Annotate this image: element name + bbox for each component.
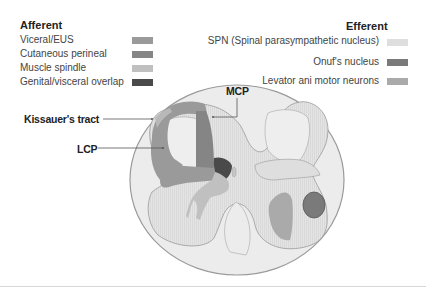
spinal-cord-diagram: [0, 0, 426, 292]
bottom-divider: [0, 286, 426, 287]
spindle-droplet: [232, 167, 236, 177]
kissauer-tract-label: Kissauer's tract: [24, 113, 99, 125]
onufs-nucleus: [303, 192, 325, 218]
lcp-label: LCP: [77, 143, 97, 155]
dorsal-horn-right: [265, 110, 310, 162]
mcp-label: MCP: [226, 85, 249, 97]
